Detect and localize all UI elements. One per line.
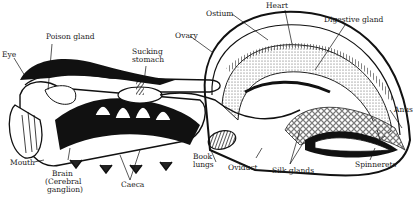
label-poison-gland: Poison gland	[46, 33, 95, 41]
label-mouth: Mouth	[10, 159, 35, 167]
label-spinnerets: Spinnerets	[355, 161, 396, 169]
label-digestive-gland: Digestive gland	[324, 16, 383, 24]
label-sucking-stomach-line2: stomach	[132, 56, 164, 64]
label-silk-glands: Silk glands	[272, 167, 314, 175]
label-anus: Anus	[394, 106, 413, 114]
label-brain-line3: ganglion)	[47, 186, 83, 194]
label-heart: Heart	[266, 2, 288, 10]
label-eye: Eye	[2, 51, 16, 59]
label-ostium: Ostium	[206, 10, 233, 18]
label-book-lungs-line2: lungs	[193, 161, 214, 169]
label-oviduct: Oviduct	[228, 164, 258, 172]
label-ovary: Ovary	[175, 32, 198, 40]
spider-anatomy-diagram: Eye Poison gland Sucking stomach Ovary O…	[0, 0, 415, 198]
label-caeca: Caeca	[121, 181, 144, 189]
